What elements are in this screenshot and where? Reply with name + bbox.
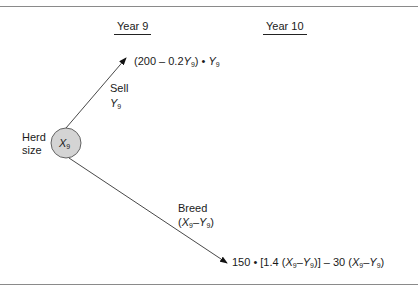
- herd-label-line1: Herd: [22, 131, 46, 144]
- node-symbol: X9: [59, 137, 70, 150]
- sell-var: Y9: [110, 97, 128, 110]
- breed-label: Breed (X9–Y9): [178, 202, 214, 229]
- herd-label: Herd size: [22, 131, 46, 157]
- herd-label-line2: size: [22, 144, 46, 157]
- sell-label: Sell Y9: [110, 82, 128, 110]
- breed-outcome: 150 • [1.4 (X9–Y9)] – 30 (X9–Y9): [232, 256, 384, 269]
- breed-label-text: Breed: [178, 202, 214, 215]
- sell-outcome: (200 – 0.2Y9) • Y9: [134, 55, 220, 68]
- breed-expr: (X9–Y9): [178, 216, 214, 229]
- sell-label-text: Sell: [110, 82, 128, 95]
- node-symbol-sub: 9: [66, 143, 70, 150]
